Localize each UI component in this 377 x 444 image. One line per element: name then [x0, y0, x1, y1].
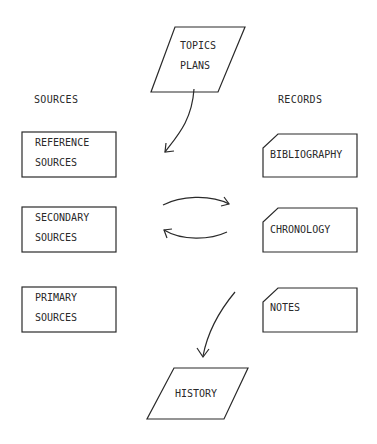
bibliography-label: BIBLIOGRAPHY: [270, 145, 342, 165]
reference-sources-label: SOURCES: [35, 153, 77, 173]
sources-header: SOURCES: [34, 94, 78, 106]
records-header: RECORDS: [278, 94, 322, 106]
arrow-sources-to-records: [163, 197, 229, 205]
secondary-sources-label: SOURCES: [35, 228, 77, 248]
topics-label: TOPICS: [180, 36, 216, 56]
arrow-topics-to-sources: [165, 89, 194, 152]
plans-label: PLANS: [180, 56, 210, 76]
arrow-records-to-history: [203, 292, 235, 356]
secondary-label: SECONDARY: [35, 208, 89, 228]
reference-label: REFERENCE: [35, 133, 89, 153]
primary-sources-label: SOURCES: [35, 308, 77, 328]
arrow-records-to-sources: [164, 230, 227, 238]
notes-label: NOTES: [270, 298, 300, 318]
primary-label: PRIMARY: [35, 288, 77, 308]
history-label: HISTORY: [175, 384, 217, 404]
chronology-label: CHRONOLOGY: [270, 220, 330, 240]
